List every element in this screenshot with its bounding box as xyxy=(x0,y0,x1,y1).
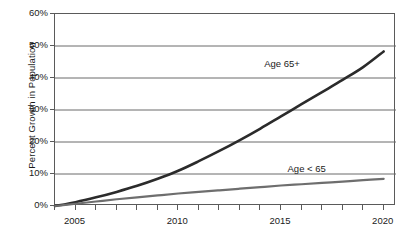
x-axis-tick-mark xyxy=(157,205,158,210)
y-axis-tick-mark xyxy=(50,77,54,78)
x-axis-tick-labels: 2005201020152020 xyxy=(0,0,410,241)
x-axis-tick-mark xyxy=(301,205,302,210)
x-axis-tick-mark xyxy=(342,205,343,210)
y-axis-tick-mark xyxy=(50,173,54,174)
x-axis-tick-mark xyxy=(95,205,96,210)
line-chart: Percent Growth in Population 0%10%20%30%… xyxy=(0,0,410,241)
x-axis-tick-mark xyxy=(362,205,363,210)
x-axis-tick-label: 2005 xyxy=(64,216,85,226)
x-axis-tick-mark xyxy=(321,205,322,210)
y-axis-tick-mark xyxy=(50,13,54,14)
x-axis-tick-mark xyxy=(383,205,384,210)
x-axis-tick-label: 2020 xyxy=(372,216,393,226)
x-axis-tick-mark xyxy=(75,205,76,210)
x-axis-tick-mark xyxy=(259,205,260,210)
x-axis-tick-mark xyxy=(136,205,137,210)
series-label-age-65: Age 65+ xyxy=(263,59,301,69)
x-axis-tick-mark xyxy=(177,205,178,210)
y-axis-tick-mark xyxy=(50,109,54,110)
x-axis-tick-mark xyxy=(116,205,117,210)
x-axis-tick-mark xyxy=(218,205,219,210)
series-label-age-65: Age < 65 xyxy=(287,164,327,174)
x-axis-tick-mark xyxy=(280,205,281,210)
y-axis-tick-mark xyxy=(50,45,54,46)
x-axis-tick-label: 2010 xyxy=(167,216,188,226)
x-axis-tick-mark xyxy=(54,205,55,210)
y-axis-tick-mark xyxy=(50,141,54,142)
x-axis-tick-mark xyxy=(198,205,199,210)
y-axis-tick-mark xyxy=(50,205,54,206)
x-axis-tick-mark xyxy=(239,205,240,210)
x-axis-tick-label: 2015 xyxy=(269,216,290,226)
